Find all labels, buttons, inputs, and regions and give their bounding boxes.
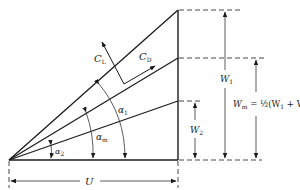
w2-line	[9, 101, 178, 160]
cl-label: CL	[94, 53, 106, 65]
alpham-label: αm	[96, 132, 108, 143]
w2-label: W2	[190, 125, 203, 136]
cd-label: CD	[139, 51, 152, 63]
w1-label: W1	[220, 74, 233, 85]
alpha2-arc	[51, 145, 52, 158]
alpha2-label: α2	[55, 147, 64, 157]
wm-line	[9, 58, 178, 160]
u-label: U	[85, 176, 94, 187]
wm-equation-label: Wm = ½(W1 + W2)	[233, 99, 300, 110]
velocity-triangle-diagram: CL CD α1 αm α2 W1 W2 Wm = ½(W1 + W2) U	[0, 0, 300, 190]
alpham-arc	[86, 112, 93, 158]
w1-line	[9, 10, 178, 160]
alpha1-label: α1	[118, 105, 128, 116]
